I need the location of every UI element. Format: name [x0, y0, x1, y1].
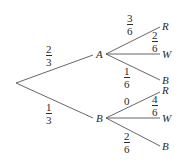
node-b: B: [96, 112, 103, 124]
prob-b-b: 2 6: [124, 131, 130, 154]
branch-root-a: [16, 55, 93, 83]
branch-b-b: [106, 118, 160, 146]
leaf-b-r: R: [162, 84, 169, 96]
prob-a-w: 2 6: [152, 30, 158, 53]
prob-a-b: 1 6: [124, 66, 130, 89]
leaf-b-b: B: [162, 140, 169, 152]
prob-b-w: 4 6: [152, 94, 158, 117]
probability-tree-diagram: 2 3 1 3 A B 3 6 2 6 1 6 R W B 0 4 6 2 6 …: [0, 0, 181, 162]
prob-root-b: 1 3: [46, 102, 52, 125]
prob-b-r: 0: [124, 96, 130, 106]
prob-a-r: 3 6: [127, 13, 133, 36]
leaf-a-w: W: [162, 48, 171, 60]
leaf-b-w: W: [162, 112, 171, 124]
prob-root-a: 2 3: [46, 44, 52, 67]
leaf-a-r: R: [162, 20, 169, 32]
branch-root-b: [16, 83, 93, 118]
branch-a-b: [106, 54, 160, 80]
tree-branches: [0, 0, 181, 162]
node-a: A: [96, 48, 103, 60]
